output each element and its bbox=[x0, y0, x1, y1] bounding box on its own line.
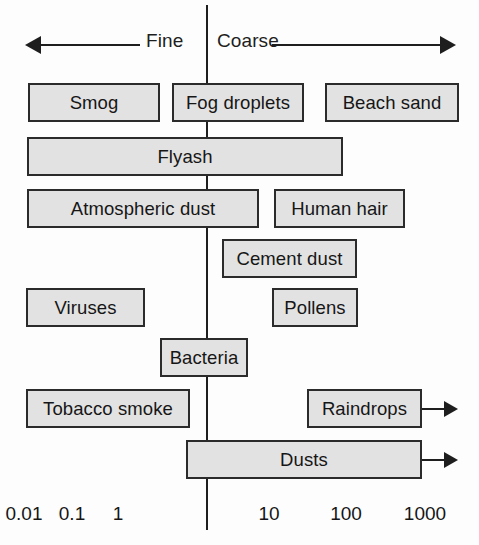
fine-label: Fine bbox=[146, 30, 183, 52]
axis-tick-label: 100 bbox=[330, 503, 362, 525]
particle-box-label: Beach sand bbox=[343, 92, 442, 114]
arrow-right-icon bbox=[440, 36, 456, 54]
particle-box: Human hair bbox=[274, 189, 405, 228]
particle-box: Viruses bbox=[26, 288, 145, 327]
axis-tick-label: 10 bbox=[258, 503, 279, 525]
particle-box: Cement dust bbox=[222, 239, 357, 278]
particle-box-label: Atmospheric dust bbox=[71, 198, 216, 220]
fine-direction-line bbox=[36, 44, 140, 46]
particle-box: Fog droplets bbox=[172, 83, 304, 122]
particle-box-label: Smog bbox=[70, 92, 119, 114]
particle-box: Pollens bbox=[272, 288, 358, 327]
particle-box-label: Raindrops bbox=[322, 398, 407, 420]
particle-box-label: Tobacco smoke bbox=[43, 398, 173, 420]
particle-box: Atmospheric dust bbox=[27, 189, 259, 228]
open-range-line bbox=[422, 459, 444, 461]
particle-box: Bacteria bbox=[160, 338, 248, 377]
axis-tick-label: 1 bbox=[113, 503, 124, 525]
particle-box: Dusts bbox=[186, 440, 422, 479]
coarse-label: Coarse bbox=[217, 30, 279, 52]
particle-box-label: Human hair bbox=[291, 198, 388, 220]
arrow-right-icon bbox=[444, 401, 458, 417]
direction-header: Fine Coarse bbox=[0, 28, 479, 62]
particle-box: Smog bbox=[28, 83, 160, 122]
particle-box-label: Cement dust bbox=[237, 248, 343, 270]
particle-box-label: Dusts bbox=[280, 449, 328, 471]
particle-box-label: Flyash bbox=[157, 146, 212, 168]
axis-tick-label: 0.1 bbox=[59, 503, 85, 525]
particle-box: Beach sand bbox=[325, 83, 459, 122]
particle-box-label: Bacteria bbox=[170, 347, 239, 369]
axis-tick-label: 0.01 bbox=[6, 503, 43, 525]
coarse-direction-line bbox=[272, 44, 447, 46]
open-range-line bbox=[422, 408, 444, 410]
particle-box-label: Fog droplets bbox=[186, 92, 290, 114]
particle-box: Tobacco smoke bbox=[26, 389, 190, 428]
arrow-right-icon bbox=[444, 452, 458, 468]
particle-box-label: Viruses bbox=[54, 297, 116, 319]
particle-box: Raindrops bbox=[307, 389, 422, 428]
particle-box-label: Pollens bbox=[284, 297, 345, 319]
particle-size-chart: Fine Coarse SmogFog dropletsBeach sandFl… bbox=[0, 0, 479, 545]
particle-box: Flyash bbox=[27, 137, 343, 176]
axis-tick-label: 1000 bbox=[404, 503, 446, 525]
